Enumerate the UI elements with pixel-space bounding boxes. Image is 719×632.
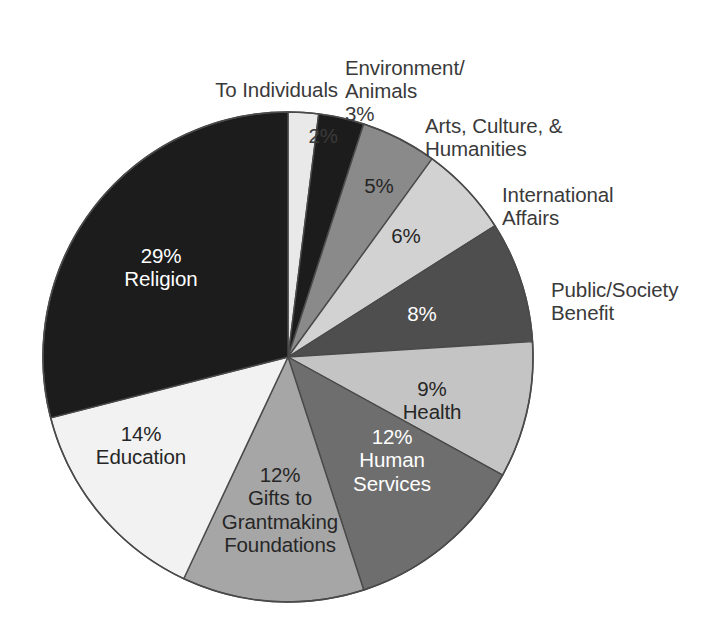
slice-label-human-services: 12% Human Services (353, 425, 431, 495)
label-to-individuals-pct: 2% (309, 124, 338, 147)
label-public-society-benefit: Public/Society Benefit (551, 256, 719, 325)
slice-label-public-society-benefit-pct: 8% (407, 302, 436, 325)
label-arts-culture-humanities: Arts, Culture, & Humanities (425, 92, 655, 161)
slice-label-religion: 29% Religion (124, 244, 197, 291)
label-public-society-benefit-name: Public/Society Benefit (551, 278, 678, 324)
slice-label-health: 9% Health (403, 377, 462, 424)
label-to-individuals-name: To Individuals (215, 78, 338, 101)
label-environment-animals-pct: 3% (345, 102, 374, 125)
slice-label-education: 14% Education (96, 422, 186, 469)
label-international-affairs: International Affairs (502, 161, 702, 230)
pie-chart: To Individuals 2% Environment/ Animals 3… (0, 0, 719, 632)
slice-label-arts-culture-humanities-pct: 5% (364, 174, 393, 197)
slice-label-international-affairs-pct: 6% (391, 224, 420, 247)
label-arts-culture-humanities-name: Arts, Culture, & Humanities (425, 114, 562, 160)
label-international-affairs-name: International Affairs (502, 183, 614, 229)
slice-label-gifts-to-grantmaking-foundations: 12% Gifts to Grantmaking Foundations (222, 463, 338, 556)
label-to-individuals: To Individuals 2% (178, 56, 338, 148)
